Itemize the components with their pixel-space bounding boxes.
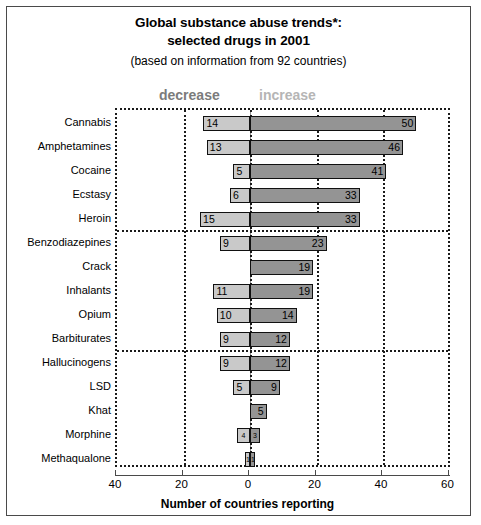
category-label: Amphetamines (7, 134, 111, 158)
bar-decrease[interactable]: 6 (230, 188, 250, 203)
chart-row: 541 (117, 160, 448, 184)
category-axis-labels: CannabisAmphetaminesCocaineEcstasyHeroin… (7, 108, 111, 467)
bar-increase[interactable]: 12 (250, 356, 290, 371)
plot-area: 1450134654163315339231911191014912912595… (115, 108, 450, 467)
category-label: Cocaine (7, 158, 111, 182)
category-label: Ecstasy (7, 182, 111, 206)
category-label: Inhalants (7, 278, 111, 302)
category-label: Cannabis (7, 110, 111, 134)
title-block: Global substance abuse trends*: selected… (7, 14, 470, 71)
bar-increase[interactable]: 12 (250, 332, 290, 347)
category-label: Benzodiazepines (7, 230, 111, 254)
x-axis-tick (182, 470, 183, 476)
bar-increase[interactable]: 46 (250, 140, 403, 155)
bar-decrease[interactable]: 9 (220, 236, 250, 251)
x-axis-tick-label: 0 (228, 478, 268, 490)
legend-item-increase: increase (259, 86, 316, 104)
category-label: LSD (7, 374, 111, 398)
chart-row: 5 (117, 400, 448, 424)
x-axis-tick (248, 470, 249, 476)
chart-frame: Global substance abuse trends*: selected… (6, 6, 471, 516)
bar-decrease[interactable]: 10 (217, 308, 250, 323)
chart-row: 59 (117, 376, 448, 400)
x-axis-line (115, 475, 450, 476)
x-axis-tick-label: 20 (162, 478, 202, 490)
bar-decrease[interactable]: 14 (203, 116, 250, 131)
bar-increase[interactable]: 41 (250, 164, 386, 179)
category-label: Crack (7, 254, 111, 278)
chart-row: 912 (117, 352, 448, 376)
bar-increase[interactable]: 19 (250, 284, 313, 299)
legend: decrease increase (7, 86, 481, 106)
chart-row: 1014 (117, 304, 448, 328)
x-axis-tick (315, 470, 316, 476)
group-separator (117, 230, 448, 232)
chart-row: 923 (117, 232, 448, 256)
chart-row: 1533 (117, 208, 448, 232)
chart-row: 11 (117, 448, 448, 472)
x-axis-tick-label: 20 (295, 478, 335, 490)
category-label: Heroin (7, 206, 111, 230)
bar-increase[interactable]: 50 (250, 116, 416, 131)
x-axis-tick-label: 60 (428, 478, 468, 490)
bar-decrease[interactable]: 5 (233, 164, 250, 179)
bar-increase[interactable]: 1 (250, 452, 255, 467)
category-label: Hallucinogens (7, 350, 111, 374)
legend-item-decrease: decrease (159, 86, 220, 104)
bar-decrease[interactable]: 9 (220, 332, 250, 347)
category-label: Khat (7, 398, 111, 422)
chart-row: 43 (117, 424, 448, 448)
x-axis-tick (115, 470, 116, 476)
bar-decrease[interactable]: 13 (207, 140, 250, 155)
chart-row: 1119 (117, 280, 448, 304)
chart-row: 633 (117, 184, 448, 208)
category-label: Barbiturates (7, 326, 111, 350)
chart-row: 912 (117, 328, 448, 352)
group-separator (117, 350, 448, 352)
bar-decrease[interactable]: 4 (237, 428, 250, 443)
bar-increase[interactable]: 5 (250, 404, 267, 419)
bar-decrease[interactable]: 9 (220, 356, 250, 371)
bar-increase[interactable]: 9 (250, 380, 280, 395)
chart-title-line-2: selected drugs in 2001 (7, 32, 470, 50)
bar-increase[interactable]: 14 (250, 308, 297, 323)
x-axis-tick (448, 470, 449, 476)
chart-row: 1450 (117, 112, 448, 136)
x-axis-tick (381, 470, 382, 476)
bar-increase[interactable]: 3 (250, 428, 260, 443)
bar-increase[interactable]: 23 (250, 236, 327, 251)
bar-decrease[interactable]: 15 (200, 212, 250, 227)
chart-subtitle: (based on information from 92 countries) (7, 50, 470, 71)
x-axis-tick-label: 40 (361, 478, 401, 490)
bar-decrease[interactable]: 5 (233, 380, 250, 395)
chart-row: 1346 (117, 136, 448, 160)
category-label: Morphine (7, 422, 111, 446)
chart-title-line-1: Global substance abuse trends*: (7, 14, 470, 32)
category-label: Opium (7, 302, 111, 326)
category-label: Methaqualone (7, 446, 111, 470)
x-axis-title: Number of countries reporting (7, 497, 481, 511)
bar-decrease[interactable]: 11 (213, 284, 250, 299)
bar-increase[interactable]: 33 (250, 188, 360, 203)
bar-increase[interactable]: 19 (250, 260, 313, 275)
bar-increase[interactable]: 33 (250, 212, 360, 227)
chart-row: 19 (117, 256, 448, 280)
x-axis-tick-label: 40 (95, 478, 135, 490)
